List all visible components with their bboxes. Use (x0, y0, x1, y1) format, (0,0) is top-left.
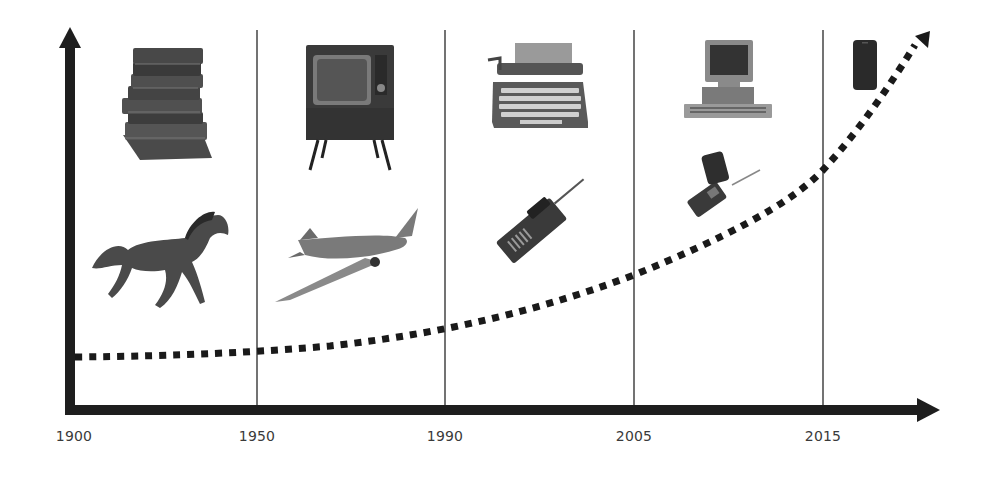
airplane-icon (275, 208, 418, 302)
technology-timeline-diagram: 1900 1950 1990 2005 2015 (0, 0, 986, 489)
x-axis-arrowhead-icon (917, 398, 940, 422)
smartphone-icon (853, 40, 877, 90)
books-icon (122, 48, 212, 160)
typewriter-icon (488, 43, 588, 128)
year-label-1900: 1900 (56, 428, 92, 444)
year-label-2005: 2005 (616, 428, 652, 444)
television-icon (306, 45, 394, 170)
desktop-computer-icon (684, 40, 772, 118)
x-axis-line (65, 405, 920, 415)
horse-icon (92, 212, 228, 308)
flip-phone-icon (670, 144, 760, 218)
growth-trend-arrowhead-icon (915, 31, 930, 48)
brick-mobile-phone-icon (493, 170, 596, 264)
year-label-2015: 2015 (805, 428, 841, 444)
y-axis-line (65, 45, 75, 415)
year-label-1950: 1950 (239, 428, 275, 444)
year-label-1990: 1990 (427, 428, 463, 444)
y-axis-arrowhead-icon (59, 27, 81, 48)
